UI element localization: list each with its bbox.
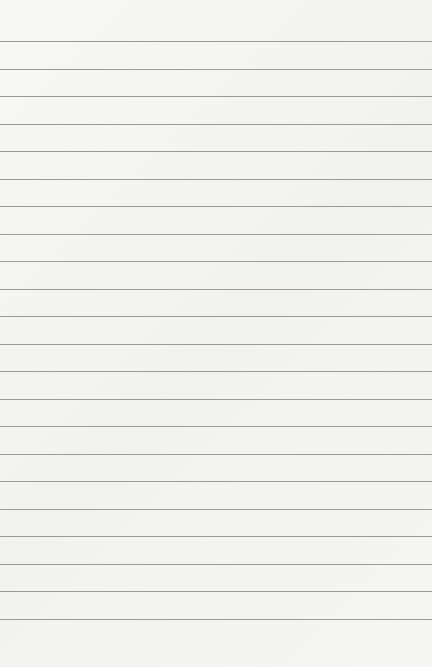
ruled-line — [0, 591, 432, 592]
ruled-line — [0, 509, 432, 510]
ruled-line — [0, 564, 432, 565]
ruled-line — [0, 289, 432, 290]
ruled-line — [0, 261, 432, 262]
ruled-line — [0, 399, 432, 400]
ruled-line — [0, 426, 432, 427]
ruled-line — [0, 206, 432, 207]
ruled-line — [0, 151, 432, 152]
ruled-line — [0, 481, 432, 482]
ruled-line — [0, 96, 432, 97]
ruled-line — [0, 69, 432, 70]
ruled-line — [0, 41, 432, 42]
ruled-line — [0, 124, 432, 125]
lined-paper — [0, 0, 432, 667]
ruled-line — [0, 536, 432, 537]
ruled-line — [0, 316, 432, 317]
ruled-line — [0, 179, 432, 180]
ruled-line — [0, 371, 432, 372]
ruled-line — [0, 344, 432, 345]
ruled-line — [0, 454, 432, 455]
ruled-line — [0, 234, 432, 235]
ruled-line — [0, 619, 432, 620]
